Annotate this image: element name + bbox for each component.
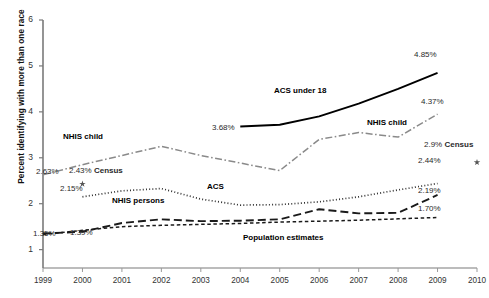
x-tick-label-2002: 2002 (144, 276, 178, 285)
x-tick-label-2003: 2003 (184, 276, 218, 285)
x-tick-label-2010: 2010 (460, 276, 489, 285)
x-tick-label-2007: 2007 (342, 276, 376, 285)
series-label-nhis-child-right: NHIS child (367, 118, 407, 127)
census-right-value: 2.9% (424, 140, 442, 149)
annotation-1-39: 1.39% (70, 228, 93, 237)
series-path-acs-under-18 (240, 73, 437, 127)
x-tick-label-2000: 2000 (65, 276, 99, 285)
series-label-population-estimates: Population estimates (243, 233, 323, 242)
series-label-nhis-persons: NHIS persons (112, 196, 164, 205)
annotation-1-35: 1.35% (33, 229, 56, 238)
annotation-1-70: 1.70% (418, 204, 441, 213)
chart-plot-area (0, 0, 489, 298)
census-star-marker (474, 159, 480, 165)
y-tick-label-3: 3 (17, 152, 33, 162)
chart-container: Percent identifying with more than one r… (0, 0, 489, 298)
series-label-acs-under-18: ACS under 18 (274, 86, 326, 95)
annotation-2-63: 2.63% (36, 167, 59, 176)
x-axis-ticks (43, 268, 477, 272)
census-label-right: 2.9% Census (424, 140, 473, 149)
y-axis-title: Percent identifying with more than one r… (17, 2, 26, 192)
census-left-name: Census (94, 166, 123, 175)
x-tick-label-2004: 2004 (223, 276, 257, 285)
annotation-4-37: 4.37% (421, 97, 444, 106)
series-label-acs: ACS (207, 182, 224, 191)
y-tick-label-6: 6 (17, 14, 33, 24)
y-tick-label-4: 4 (17, 106, 33, 116)
annotation-3-68: 3.68% (212, 123, 235, 132)
annotation-2-19: 2.19% (418, 186, 441, 195)
census-label-left: 2.43% Census (69, 166, 123, 175)
series-path-nhis-persons (43, 195, 438, 234)
annotation-2-44: 2.44% (418, 156, 441, 165)
x-tick-label-2009: 2009 (421, 276, 455, 285)
census-left-value: 2.43% (69, 166, 92, 175)
census-right-name: Census (444, 140, 473, 149)
annotation-2-15: 2.15% (60, 184, 83, 193)
x-tick-label-1999: 1999 (26, 276, 60, 285)
y-tick-label-1: 1 (17, 244, 33, 254)
y-tick-label-2: 2 (17, 198, 33, 208)
annotation-4-85: 4.85% (414, 50, 437, 59)
series-lines (43, 73, 438, 235)
x-tick-label-2008: 2008 (381, 276, 415, 285)
y-tick-label-5: 5 (17, 60, 33, 70)
series-label-nhis-child-left: NHIS child (63, 132, 103, 141)
x-tick-label-2001: 2001 (105, 276, 139, 285)
x-tick-label-2005: 2005 (263, 276, 297, 285)
x-tick-label-2006: 2006 (302, 276, 336, 285)
